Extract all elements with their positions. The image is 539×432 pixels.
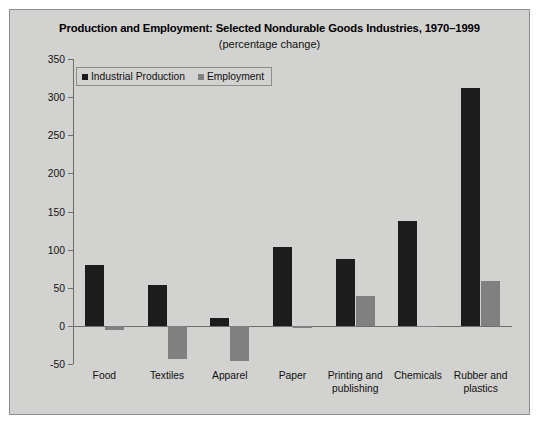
y-axis-tick-label: 100 (48, 244, 65, 255)
bar-employment (356, 296, 375, 326)
bar-employment (230, 326, 249, 361)
y-axis-tick (68, 135, 73, 136)
y-axis-tick (68, 97, 73, 98)
y-axis-tick (68, 173, 73, 174)
bar-employment (293, 326, 312, 328)
chart-subtitle: (percentage change) (10, 38, 529, 50)
bar-industrial-production (336, 259, 355, 326)
x-axis-label-apparel: Apparel (198, 370, 261, 383)
bar-industrial-production (210, 318, 229, 326)
x-axis-label-chemicals: Chemicals (387, 370, 450, 383)
x-axis-label-rubber-and-plastics: Rubber andplastics (449, 370, 512, 395)
y-axis-tick (68, 250, 73, 251)
y-axis-tick (68, 288, 73, 289)
y-axis-tick-label: 50 (54, 282, 65, 293)
bar-employment (105, 326, 124, 330)
y-axis-tick (68, 326, 73, 327)
y-axis-tick (68, 212, 73, 213)
x-axis-label-food: Food (73, 370, 136, 383)
chart-title: Production and Employment: Selected Nond… (10, 22, 529, 34)
y-axis-tick-label: 0 (59, 320, 65, 331)
x-axis-label-paper: Paper (261, 370, 324, 383)
y-axis-tick-label: 350 (48, 54, 65, 65)
y-axis-tick-label: 250 (48, 130, 65, 141)
bar-industrial-production (85, 265, 104, 326)
y-axis-line (73, 59, 74, 364)
plot-area: -50050100150200250300350 (73, 59, 512, 364)
bar-employment (168, 326, 187, 360)
bar-industrial-production (398, 221, 417, 325)
bar-employment (418, 326, 437, 328)
y-axis-tick-label: 200 (48, 168, 65, 179)
chart-figure: Production and Employment: Selected Nond… (9, 9, 530, 415)
bar-industrial-production (461, 88, 480, 326)
bar-industrial-production (273, 247, 292, 326)
bar-industrial-production (148, 285, 167, 326)
y-axis-tick-label: -50 (50, 359, 65, 370)
y-axis-tick (68, 59, 73, 60)
x-axis-label-printing-and-publishing: Printing andpublishing (324, 370, 387, 395)
x-axis-label-textiles: Textiles (136, 370, 199, 383)
y-axis-tick (68, 364, 73, 365)
y-axis-tick-label: 300 (48, 92, 65, 103)
y-axis-tick-label: 150 (48, 206, 65, 217)
bar-employment (481, 281, 500, 326)
